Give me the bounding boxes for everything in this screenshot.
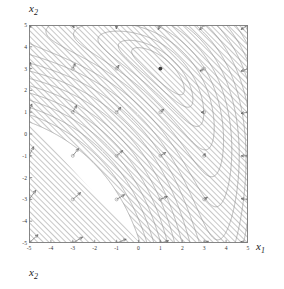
shaded-region xyxy=(29,25,248,243)
x-tick-label: -4 xyxy=(49,245,54,251)
x-tick-label: 1 xyxy=(159,245,162,251)
x-tick-label: 5 xyxy=(247,245,250,251)
y-axis-label-bottom-sub: 2 xyxy=(34,272,38,281)
y-tick-label: -1 xyxy=(16,153,27,159)
y-axis-label-bottom: x2 xyxy=(29,266,38,281)
x-tick-label: -5 xyxy=(27,245,32,251)
y-tick-label: -4 xyxy=(16,218,27,224)
contour-plot-svg xyxy=(29,25,248,243)
minimum-point-marker xyxy=(159,67,163,71)
figure-root: x2 x1 x2 -5 xyxy=(0,0,284,289)
x-tick-label: 0 xyxy=(137,245,140,251)
y-tick-label: -5 xyxy=(16,240,27,246)
y-tick-label: 2 xyxy=(16,87,27,93)
y-tick-label: -3 xyxy=(16,196,27,202)
y-tick-label: 4 xyxy=(16,44,27,50)
x-tick-label: 2 xyxy=(181,245,184,251)
y-tick-label: -2 xyxy=(16,175,27,181)
hatched-region xyxy=(29,25,248,243)
y-axis-label-top-sub: 2 xyxy=(34,8,38,17)
x-tick-label: -3 xyxy=(70,245,75,251)
plot-area xyxy=(29,25,248,243)
x-axis-label: x1 xyxy=(256,240,265,255)
y-tick-label: 1 xyxy=(16,109,27,115)
x-tick-label: 3 xyxy=(203,245,206,251)
y-axis-label-top: x2 xyxy=(29,2,38,17)
x-axis-label-sub: 1 xyxy=(261,246,265,255)
x-tick-label: -2 xyxy=(92,245,97,251)
x-tick-label: -1 xyxy=(114,245,119,251)
y-tick-label: 3 xyxy=(16,66,27,72)
x-tick-label: 4 xyxy=(225,245,228,251)
y-tick-label: 0 xyxy=(16,131,27,137)
minimum-marker xyxy=(159,67,163,71)
y-tick-label: 5 xyxy=(16,22,27,28)
